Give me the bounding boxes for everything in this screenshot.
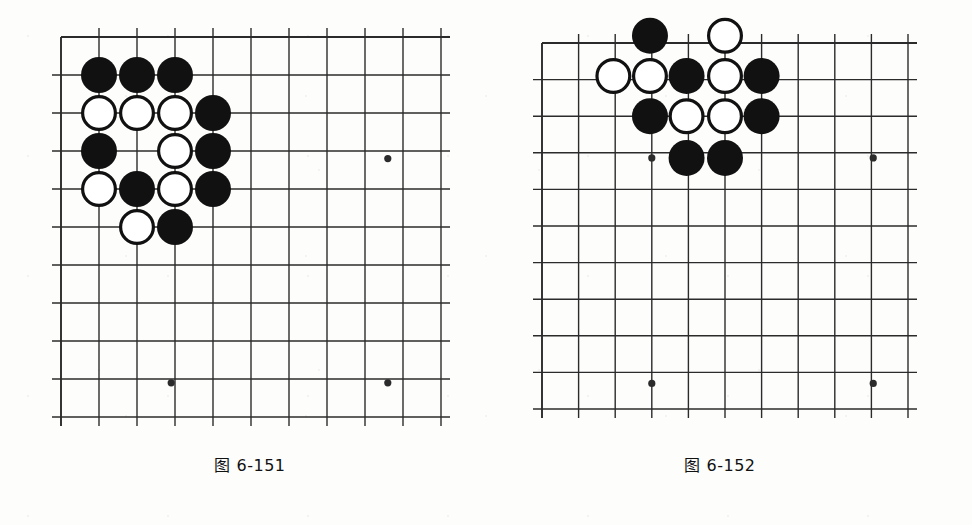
board-grid <box>35 11 467 443</box>
star-point <box>168 379 175 386</box>
star-point <box>384 155 391 162</box>
go-board-right[interactable] <box>516 17 934 435</box>
page-canvas: 图 6-151 图 6-152 <box>0 0 972 525</box>
black-stone[interactable] <box>669 58 705 94</box>
board-grid <box>516 17 934 435</box>
star-point <box>648 380 655 387</box>
star-point <box>384 379 391 386</box>
figure-caption-left: 图 6-151 <box>60 452 440 476</box>
figure-right: 图 6-152 <box>486 0 972 525</box>
black-stone[interactable] <box>632 18 668 54</box>
star-point <box>870 380 877 387</box>
black-stone[interactable] <box>669 140 705 176</box>
star-point <box>648 154 655 161</box>
go-board-left[interactable] <box>35 11 467 443</box>
figure-left: 图 6-151 <box>0 0 486 525</box>
white-stone[interactable] <box>634 60 667 93</box>
figure-caption-right: 图 6-152 <box>530 452 910 476</box>
star-point <box>870 154 877 161</box>
white-stone[interactable] <box>597 60 630 93</box>
